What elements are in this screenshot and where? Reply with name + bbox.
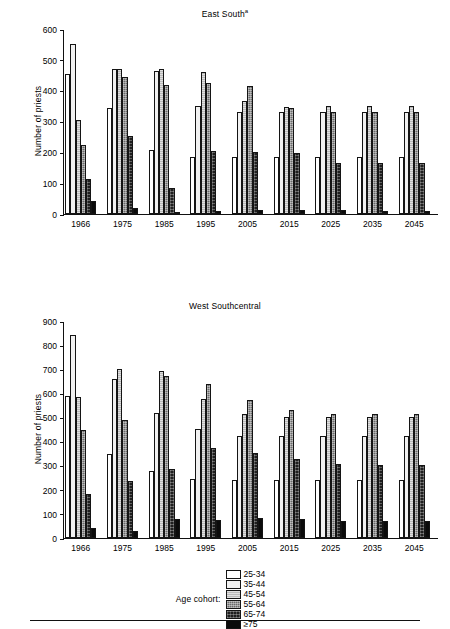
- y-axis-tick-mark: [60, 490, 64, 491]
- bar-45-54-2045: [409, 106, 414, 214]
- chart-panel-east-south: East Southa Number of priests 0100200300…: [0, 8, 450, 293]
- dark-gray-textured-swatch: [226, 600, 241, 609]
- chart-panel-west-southcentral: West Southcentral Number of priests 0100…: [0, 300, 450, 585]
- bar-65-74-2015: [294, 459, 299, 538]
- bar-35-44-2025: [320, 436, 325, 538]
- y-axis-tick-mark: [60, 442, 64, 443]
- plot-area-top: 0100200300400500600196619751985199520052…: [63, 30, 438, 215]
- bar-gte75-2015: [300, 210, 305, 214]
- x-axis-tick-label: 2015: [280, 219, 299, 229]
- light-gray-swatch: [226, 580, 241, 589]
- bar-25-34-1966: [65, 396, 70, 538]
- bar-55-64-2035: [372, 414, 377, 538]
- x-axis-tick-label: 1995: [196, 219, 215, 229]
- legend-item-label: 35-44: [243, 579, 265, 589]
- footer-divider: [30, 620, 420, 621]
- x-axis-tick-label: 1966: [71, 219, 90, 229]
- bar-65-74-2025: [336, 163, 341, 214]
- y-axis-tick-label: 400: [43, 87, 57, 96]
- bar-25-34-2025: [315, 157, 320, 214]
- y-axis-tick-mark: [60, 184, 64, 185]
- bar-65-74-1975: [128, 481, 133, 538]
- y-axis-tick-label: 200: [43, 149, 57, 158]
- bar-35-44-2045: [404, 112, 409, 214]
- y-axis-tick-mark: [60, 514, 64, 515]
- y-axis-tick-mark: [60, 30, 64, 31]
- chart-title-top-text: East South: [202, 9, 245, 19]
- bar-35-44-2015: [279, 436, 284, 538]
- x-axis-tick-label: 2005: [238, 543, 257, 553]
- y-axis-tick-mark: [60, 539, 64, 540]
- bar-45-54-1966: [76, 397, 81, 538]
- bar-group: [190, 30, 221, 214]
- y-axis-tick-label: 0: [52, 211, 57, 220]
- bar-55-64-1995: [206, 83, 211, 214]
- bar-35-44-1975: [112, 69, 117, 214]
- y-axis-tick-mark: [60, 466, 64, 467]
- y-axis-tick-mark: [60, 60, 64, 61]
- y-axis-tick-mark: [60, 153, 64, 154]
- bar-gte75-2035: [383, 521, 388, 538]
- bar-group: [399, 322, 430, 538]
- bar-55-64-1985: [164, 85, 169, 214]
- bar-group: [65, 322, 96, 538]
- bar-35-44-1985: [154, 71, 159, 214]
- bar-55-64-2045: [414, 414, 419, 538]
- bar-35-44-2015: [279, 112, 284, 214]
- bar-gte75-1995: [216, 520, 221, 538]
- bar-25-34-1975: [107, 108, 112, 214]
- bar-45-54-2015: [284, 417, 289, 538]
- bar-gte75-1975: [133, 208, 138, 214]
- x-axis-tick-label: 1985: [155, 543, 174, 553]
- bar-55-64-1966: [81, 145, 86, 214]
- bar-65-74-2045: [419, 163, 424, 214]
- bar-25-34-2005: [232, 157, 237, 214]
- bar-45-54-2025: [326, 106, 331, 214]
- chart-title-bottom: West Southcentral: [0, 300, 450, 311]
- x-axis-tick-label: 2045: [405, 219, 424, 229]
- bar-65-74-2045: [419, 465, 424, 538]
- y-axis-tick-label: 100: [43, 180, 57, 189]
- bar-group: [357, 30, 388, 214]
- x-axis-tick-label: 2005: [238, 219, 257, 229]
- bar-35-44-1966: [70, 44, 75, 214]
- legend-item-35-44: 35-44: [226, 579, 265, 589]
- bar-group: [232, 322, 263, 538]
- legend: Age cohort: 25-3435-4445-5455-6465-74≥75: [0, 590, 450, 608]
- y-axis-tick-label: 0: [52, 535, 57, 544]
- bar-55-64-1975: [122, 420, 127, 538]
- y-axis-tick-mark: [60, 91, 64, 92]
- bar-35-44-2005: [237, 436, 242, 538]
- bar-25-34-1995: [190, 479, 195, 538]
- bar-65-74-1985: [169, 188, 174, 214]
- legend-title: Age cohort:: [176, 594, 221, 604]
- y-axis-label-top: Number of priests: [33, 46, 43, 196]
- y-axis-tick-label: 700: [43, 366, 57, 375]
- chart-title-bottom-text: West Southcentral: [189, 301, 261, 311]
- bar-gte75-2005: [258, 518, 263, 538]
- bar-group: [274, 30, 305, 214]
- bar-25-34-2005: [232, 480, 237, 538]
- bar-35-44-1975: [112, 379, 117, 538]
- bar-group: [190, 322, 221, 538]
- y-axis-tick-mark: [60, 370, 64, 371]
- x-axis-tick-label: 2025: [321, 543, 340, 553]
- bar-gte75-1966: [91, 528, 96, 538]
- bar-gte75-1966: [91, 201, 96, 214]
- x-axis-tick-label: 2025: [321, 219, 340, 229]
- legend-item-45-54: 45-54: [226, 589, 265, 599]
- bar-45-54-1985: [159, 69, 164, 214]
- x-axis-tick-label: 1975: [113, 219, 132, 229]
- bar-65-74-1985: [169, 469, 174, 538]
- chart-title-top-superscript: a: [245, 8, 249, 14]
- y-axis-tick-label: 600: [43, 26, 57, 35]
- y-axis-tick-label: 100: [43, 511, 57, 520]
- legend-item-55-64: 55-64: [226, 599, 265, 609]
- bar-35-44-2045: [404, 436, 409, 538]
- medium-gray-swatch: [226, 590, 241, 599]
- bar-gte75-2005: [258, 210, 263, 214]
- bar-gte75-2025: [341, 210, 346, 214]
- bar-group: [232, 30, 263, 214]
- bar-35-44-1985: [154, 413, 159, 538]
- bar-gte75-2025: [341, 521, 346, 538]
